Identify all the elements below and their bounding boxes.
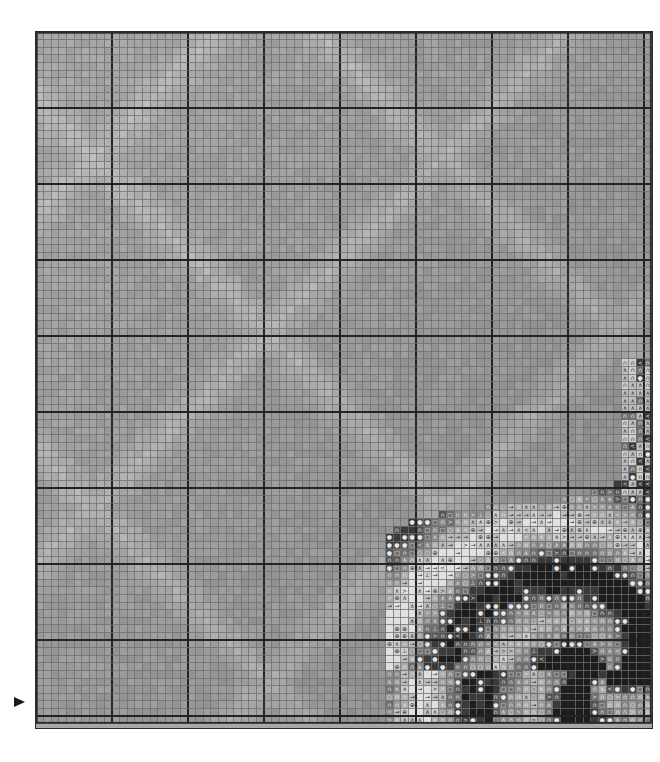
- stitch-cell[interactable]: [66, 62, 74, 70]
- stitch-cell[interactable]: [530, 579, 538, 587]
- stitch-cell[interactable]: [180, 169, 188, 177]
- stitch-cell[interactable]: [477, 351, 485, 359]
- stitch-cell[interactable]: ∧: [408, 655, 416, 663]
- stitch-cell[interactable]: [454, 610, 462, 618]
- stitch-cell[interactable]: [196, 161, 204, 169]
- stitch-cell[interactable]: [188, 328, 196, 336]
- stitch-cell[interactable]: [340, 275, 348, 283]
- stitch-cell[interactable]: [89, 100, 97, 108]
- stitch-cell[interactable]: [264, 442, 272, 450]
- stitch-cell[interactable]: [150, 701, 158, 709]
- stitch-cell[interactable]: [416, 131, 424, 139]
- stitch-cell[interactable]: ●: [424, 518, 432, 526]
- stitch-cell[interactable]: [82, 458, 90, 466]
- stitch-cell[interactable]: [180, 298, 188, 306]
- stitch-cell[interactable]: [135, 336, 143, 344]
- stitch-cell[interactable]: [294, 146, 302, 154]
- stitch-cell[interactable]: [173, 40, 181, 48]
- stitch-cell[interactable]: [104, 473, 112, 481]
- stitch-cell[interactable]: [74, 344, 82, 352]
- stitch-cell[interactable]: [446, 207, 454, 215]
- stitch-cell[interactable]: [644, 138, 652, 146]
- stitch-cell[interactable]: [150, 496, 158, 504]
- stitch-cell[interactable]: [340, 298, 348, 306]
- stitch-cell[interactable]: [180, 511, 188, 519]
- stitch-cell[interactable]: [135, 686, 143, 694]
- stitch-cell[interactable]: [211, 556, 219, 564]
- stitch-cell[interactable]: <: [629, 511, 637, 519]
- stitch-cell[interactable]: [492, 366, 500, 374]
- stitch-cell[interactable]: [370, 214, 378, 222]
- stitch-cell[interactable]: [158, 108, 166, 116]
- stitch-cell[interactable]: [226, 154, 234, 162]
- stitch-cell[interactable]: [545, 283, 553, 291]
- stitch-cell[interactable]: [82, 511, 90, 519]
- stitch-cell[interactable]: [272, 100, 280, 108]
- stitch-cell[interactable]: ∩: [576, 549, 584, 557]
- stitch-cell[interactable]: [59, 564, 67, 572]
- stitch-cell[interactable]: [553, 572, 561, 580]
- stitch-cell[interactable]: [469, 534, 477, 542]
- stitch-cell[interactable]: [332, 625, 340, 633]
- stitch-cell[interactable]: [287, 116, 295, 124]
- stitch-cell[interactable]: [211, 169, 219, 177]
- stitch-cell[interactable]: [348, 427, 356, 435]
- stitch-cell[interactable]: [150, 93, 158, 101]
- stitch-cell[interactable]: [310, 131, 318, 139]
- stitch-cell[interactable]: ∩: [636, 511, 644, 519]
- stitch-cell[interactable]: [500, 192, 508, 200]
- stitch-cell[interactable]: ●: [424, 663, 432, 671]
- stitch-cell[interactable]: [279, 610, 287, 618]
- stitch-cell[interactable]: [416, 480, 424, 488]
- stitch-cell[interactable]: [393, 62, 401, 70]
- stitch-cell[interactable]: [515, 184, 523, 192]
- stitch-cell[interactable]: [112, 640, 120, 648]
- stitch-cell[interactable]: □: [621, 503, 629, 511]
- stitch-cell[interactable]: [180, 268, 188, 276]
- stitch-cell[interactable]: [59, 708, 67, 716]
- stitch-cell[interactable]: [97, 541, 105, 549]
- stitch-cell[interactable]: [477, 184, 485, 192]
- stitch-cell[interactable]: [226, 123, 234, 131]
- stitch-cell[interactable]: [484, 237, 492, 245]
- stitch-cell[interactable]: [211, 298, 219, 306]
- stitch-cell[interactable]: ∩: [629, 693, 637, 701]
- stitch-cell[interactable]: [36, 351, 44, 359]
- stitch-cell[interactable]: [44, 382, 52, 390]
- stitch-cell[interactable]: [158, 328, 166, 336]
- stitch-cell[interactable]: [51, 192, 59, 200]
- stitch-cell[interactable]: ○: [484, 655, 492, 663]
- stitch-cell[interactable]: [484, 78, 492, 86]
- stitch-cell[interactable]: [256, 344, 264, 352]
- stitch-cell[interactable]: [340, 534, 348, 542]
- stitch-cell[interactable]: [241, 237, 249, 245]
- stitch-cell[interactable]: [302, 313, 310, 321]
- stitch-cell[interactable]: [538, 572, 546, 580]
- stitch-cell[interactable]: [287, 632, 295, 640]
- stitch-cell[interactable]: [150, 404, 158, 412]
- stitch-cell[interactable]: [158, 351, 166, 359]
- stitch-cell[interactable]: [477, 382, 485, 390]
- stitch-cell[interactable]: ∩: [606, 541, 614, 549]
- stitch-cell[interactable]: [530, 47, 538, 55]
- stitch-cell[interactable]: [241, 306, 249, 314]
- stitch-cell[interactable]: [158, 40, 166, 48]
- stitch-cell[interactable]: [158, 625, 166, 633]
- stitch-cell[interactable]: [591, 230, 599, 238]
- stitch-cell[interactable]: [188, 450, 196, 458]
- stitch-cell[interactable]: [264, 237, 272, 245]
- stitch-cell[interactable]: [446, 131, 454, 139]
- stitch-cell[interactable]: [553, 496, 561, 504]
- stitch-cell[interactable]: [416, 237, 424, 245]
- stitch-cell[interactable]: ∧: [484, 556, 492, 564]
- stitch-cell[interactable]: [340, 344, 348, 352]
- stitch-cell[interactable]: [89, 541, 97, 549]
- stitch-cell[interactable]: [355, 655, 363, 663]
- stitch-cell[interactable]: [97, 534, 105, 542]
- stitch-cell[interactable]: [355, 511, 363, 519]
- stitch-cell[interactable]: [234, 541, 242, 549]
- stitch-cell[interactable]: [636, 678, 644, 686]
- stitch-cell[interactable]: [226, 199, 234, 207]
- stitch-cell[interactable]: [378, 100, 386, 108]
- stitch-cell[interactable]: [59, 496, 67, 504]
